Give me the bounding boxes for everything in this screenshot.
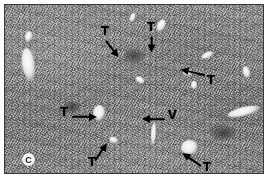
micrograph-plate: TTTTVTT C [4,4,264,174]
arrow-head [89,113,97,121]
micrograph-figure: TTTTVTT C [0,0,268,182]
arrow-icon [148,37,157,52]
vessel-lumen [191,81,197,89]
vessel-lumen [123,49,145,63]
arrow-head [148,45,156,53]
arrow-head [180,66,190,76]
arrow-icon [72,112,96,121]
annotation-label-t4: T [60,105,68,118]
arrow-icon [143,115,165,124]
annotation-label-t3: T [207,73,215,86]
annotation-label-v1: V [168,108,177,121]
arrow-shaft [72,115,90,117]
arrow-shaft [149,118,165,120]
annotation-label-t6: T [203,160,211,173]
panel-label-badge: C [22,153,35,166]
nuclei-speckle-texture-secondary [4,4,264,174]
panel-label-text: C [25,155,32,165]
arrow-head [142,116,150,124]
annotation-label-t2: T [147,20,155,33]
vessel-lumen [210,125,236,141]
annotation-label-t1: T [101,24,109,37]
arrow-shaft [187,70,205,76]
